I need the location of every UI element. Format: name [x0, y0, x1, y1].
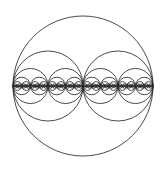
fractal-circle-level-7 [152, 85, 153, 86]
circle-layer [13, 16, 153, 156]
recursive-circle-fractal-diagram [0, 0, 165, 174]
figure-canvas [0, 0, 165, 174]
